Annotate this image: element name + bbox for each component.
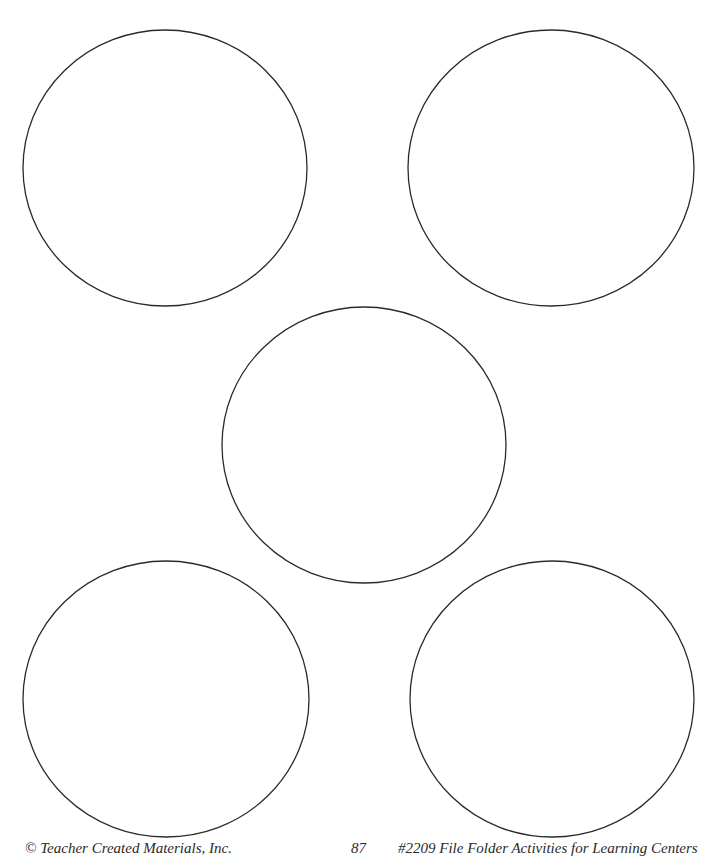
circle-top-left [23,30,307,306]
circle-template-canvas [0,0,715,863]
circle-top-right [408,30,694,306]
worksheet-page: © Teacher Created Materials, Inc. 87 #22… [0,0,715,863]
footer-copyright: © Teacher Created Materials, Inc. [25,840,232,857]
footer-book-title: #2209 File Folder Activities for Learnin… [398,840,698,857]
circle-center [222,307,506,583]
circle-bottom-right [410,561,694,837]
circle-bottom-left [23,561,309,837]
footer-page-number: 87 [351,840,366,857]
